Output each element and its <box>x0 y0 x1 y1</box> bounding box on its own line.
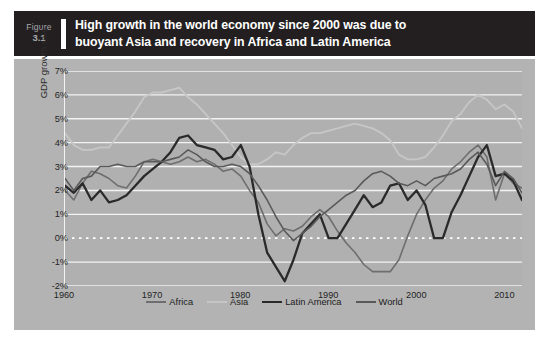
y-tick-label: 2% <box>34 185 68 195</box>
y-tick-label: 5% <box>34 114 68 124</box>
y-axis-title: GDP growth rate <box>38 3 49 123</box>
plot-frame: GDP growth rate 7%6%5%4%3%2%1%0%-1%-2% 1… <box>64 71 522 286</box>
legend-swatch-icon <box>207 301 227 303</box>
legend-item-latin-america[interactable]: Latin America <box>262 297 341 307</box>
y-tick-label: 6% <box>34 90 68 100</box>
y-tick-label: 3% <box>34 162 68 172</box>
chart-panel: GDP growth rate 7%6%5%4%3%2%1%0%-1%-2% 1… <box>14 59 535 330</box>
series-line-world <box>65 150 522 241</box>
legend-swatch-icon <box>356 301 376 303</box>
legend-item-africa[interactable]: Africa <box>146 297 193 307</box>
title-line-2: buoyant Asia and recovery in Africa and … <box>75 34 406 50</box>
figure-number-block: Figure 3.1 <box>14 23 60 45</box>
title-divider <box>61 19 66 49</box>
legend-item-asia[interactable]: Asia <box>207 297 248 307</box>
series-lines <box>65 88 522 282</box>
figure-title-bar: Figure 3.1 High growth in the world econ… <box>14 11 535 56</box>
legend-label: World <box>379 297 403 307</box>
legend-label: Asia <box>230 297 248 307</box>
title-line-1: High growth in the world economy since 2… <box>75 17 406 33</box>
y-tick-label: 7% <box>34 66 68 76</box>
y-tick-label: -1% <box>34 257 68 267</box>
legend-swatch-icon <box>146 301 166 303</box>
legend-label: Africa <box>169 297 193 307</box>
figure-container: Figure 3.1 High growth in the world econ… <box>0 0 549 344</box>
legend-item-world[interactable]: World <box>356 297 403 307</box>
series-line-latin-america <box>65 136 522 282</box>
y-tick-label: 0% <box>34 233 68 243</box>
chart-legend: AfricaAsiaLatin AmericaWorld <box>14 297 535 307</box>
series-line-asia <box>65 88 522 164</box>
y-tick-label: 4% <box>34 138 68 148</box>
legend-label: Latin America <box>285 297 341 307</box>
plot-area <box>64 71 522 286</box>
line-chart-svg <box>65 71 522 286</box>
page-title: High growth in the world economy since 2… <box>75 17 414 50</box>
y-tick-label: 1% <box>34 209 68 219</box>
legend-swatch-icon <box>262 301 282 303</box>
